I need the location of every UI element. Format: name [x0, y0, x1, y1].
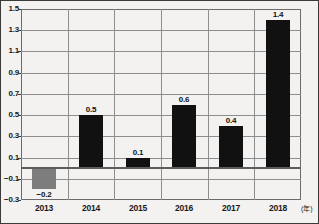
bar-value-label: 0.1: [118, 148, 158, 157]
x-axis-tick-label: 2016: [164, 203, 204, 213]
y-axis-tick: [18, 94, 21, 95]
y-axis-tick-label: 1.1: [0, 47, 19, 55]
chart-frame-right: [318, 0, 319, 224]
y-axis-tick-label: 0.3: [0, 132, 19, 140]
gridline-vertical: [208, 9, 209, 200]
plot-right-border: [300, 9, 301, 200]
y-axis-tick-label: 0.1: [0, 154, 19, 162]
bar: [32, 168, 56, 189]
y-axis-tick: [18, 115, 21, 116]
zero-baseline: [21, 167, 301, 169]
y-axis-tick: [18, 136, 21, 137]
y-axis-tick-label: 1.5: [0, 5, 19, 13]
y-axis-tick: [18, 179, 21, 180]
y-axis-tick: [18, 158, 21, 159]
x-axis-tick-labels: 201320142015201620172018: [21, 203, 301, 215]
chart-frame-top: [0, 0, 319, 1]
gridline-vertical: [254, 9, 255, 200]
gridline-vertical: [68, 9, 69, 200]
plot-area: −0.20.50.10.60.41.4: [21, 9, 301, 200]
x-axis-tick-label: 2014: [71, 203, 111, 213]
bar-value-label: 0.4: [211, 116, 251, 125]
y-axis-line: [21, 9, 22, 200]
y-axis-tick-labels: 1.51.31.10.90.70.50.30.1−0.1−0.3: [0, 9, 19, 200]
bar-value-label: −0.2: [24, 190, 64, 199]
y-axis-tick-label: −0.3: [0, 196, 19, 204]
y-axis-tick-label: 0.5: [0, 111, 19, 119]
x-axis-tick-label: 2013: [24, 203, 64, 213]
y-axis-tick: [18, 9, 21, 10]
x-axis-unit-label: (年): [301, 205, 313, 213]
bar-value-label: 0.5: [71, 105, 111, 114]
gridline-vertical: [161, 9, 162, 200]
y-axis-tick: [18, 30, 21, 31]
x-axis-tick-label: 2015: [118, 203, 158, 213]
y-axis-tick-label: 0.9: [0, 69, 19, 77]
chart-frame-bottom: [0, 223, 319, 224]
bar-value-label: 1.4: [258, 10, 298, 19]
bar: [219, 126, 243, 168]
bar: [266, 20, 290, 169]
gridline-vertical: [114, 9, 115, 200]
y-axis-tick: [18, 51, 21, 52]
y-axis-tick: [18, 73, 21, 74]
y-axis-tick-label: 1.3: [0, 26, 19, 34]
bar: [172, 105, 196, 169]
x-axis-tick-label: 2017: [211, 203, 251, 213]
y-axis-tick-label: 0.7: [0, 90, 19, 98]
y-axis-tick-label: −0.1: [0, 175, 19, 183]
bar-chart: 1.51.31.10.90.70.50.30.1−0.1−0.3 −0.20.5…: [0, 0, 319, 224]
x-axis-tick-label: 2018: [258, 203, 298, 213]
y-axis-tick: [18, 200, 21, 201]
bar: [79, 115, 103, 168]
bar-value-label: 0.6: [164, 95, 204, 104]
